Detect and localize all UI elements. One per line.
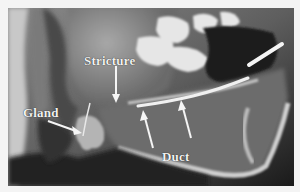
label-stricture: Stricture	[84, 54, 135, 67]
label-duct: Duct	[162, 150, 190, 163]
radiograph-frame: Stricture Gland Duct	[8, 8, 294, 186]
label-gland: Gland	[23, 106, 59, 119]
sialogram-xray-image	[8, 8, 294, 186]
